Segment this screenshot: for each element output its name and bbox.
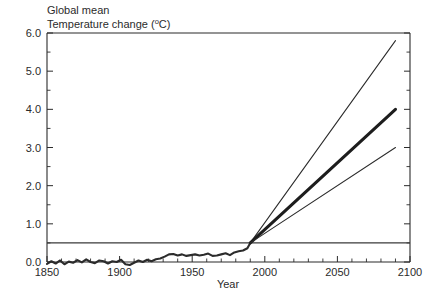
x-tick-label: 1950 xyxy=(180,266,204,278)
y-tick-label: 5.0 xyxy=(26,65,41,77)
x-axis-labels: 185019001950200020502100 xyxy=(35,266,422,278)
y-tick-label: 1.0 xyxy=(26,218,41,230)
x-tick-label: 2050 xyxy=(325,266,349,278)
y-tick-label: 3.0 xyxy=(26,142,41,154)
chart-title-line-1: Global mean xyxy=(47,4,109,16)
high-projection-series xyxy=(250,41,395,243)
y-tick-label: 2.0 xyxy=(26,180,41,192)
chart-title-suffix: C) xyxy=(159,18,171,30)
y-axis-labels: 0.01.02.03.04.05.06.0 xyxy=(26,27,41,268)
chart-title-line-2: Temperature change (oC) xyxy=(47,17,170,30)
x-axis-title: Year xyxy=(217,278,240,290)
x-tick-label: 1900 xyxy=(107,266,131,278)
best-estimate-projection-series xyxy=(250,109,395,243)
chart-title-prefix: Temperature change ( xyxy=(47,18,155,30)
x-tick-label: 1850 xyxy=(35,266,59,278)
x-tick-label: 2100 xyxy=(398,266,422,278)
x-tick-label: 2000 xyxy=(253,266,277,278)
y-tick-label: 4.0 xyxy=(26,103,41,115)
low-projection-series xyxy=(250,148,395,243)
chart-svg: Global mean Temperature change (oC) 0.01… xyxy=(0,0,441,304)
y-tick-label: 6.0 xyxy=(26,27,41,39)
temperature-projection-chart: Global mean Temperature change (oC) 0.01… xyxy=(0,0,441,304)
